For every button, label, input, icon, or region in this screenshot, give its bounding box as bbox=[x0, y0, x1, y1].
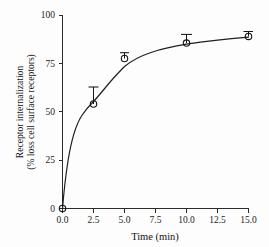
y-axis-ticks bbox=[59, 15, 63, 209]
x-tick-label-2_5: 2.5 bbox=[88, 215, 100, 225]
x-tick-label-12_5: 12.5 bbox=[209, 215, 226, 225]
x-tick-label-15: 15.0 bbox=[240, 215, 257, 225]
x-tick-label-0: 0.0 bbox=[57, 215, 69, 225]
fit-curve bbox=[63, 37, 249, 208]
chart-figure: 0 25 50 75 100 0.0 2.5 5.0 7.5 10.0 12.5… bbox=[0, 0, 269, 247]
x-axis-ticks bbox=[63, 209, 249, 213]
y-tick-label-50: 50 bbox=[46, 107, 56, 117]
y-axis-title-line2: (% loss cell surface receptors) bbox=[25, 54, 37, 170]
y-axis-title-line1: Receptor internalization bbox=[14, 66, 25, 159]
chart-plot-area: 0 25 50 75 100 0.0 2.5 5.0 7.5 10.0 12.5… bbox=[0, 0, 269, 247]
error-bars bbox=[89, 32, 254, 105]
y-tick-label-25: 25 bbox=[46, 155, 56, 165]
x-tick-label-5: 5.0 bbox=[119, 215, 131, 225]
x-tick-label-10: 10.0 bbox=[178, 215, 195, 225]
y-tick-label-75: 75 bbox=[46, 59, 56, 69]
y-tick-label-100: 100 bbox=[41, 10, 56, 20]
y-tick-label-0: 0 bbox=[50, 204, 55, 214]
x-tick-label-7_5: 7.5 bbox=[150, 215, 162, 225]
x-axis-title: Time (min) bbox=[131, 231, 179, 243]
data-markers bbox=[59, 33, 251, 212]
